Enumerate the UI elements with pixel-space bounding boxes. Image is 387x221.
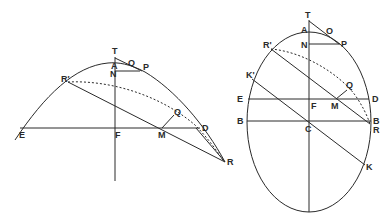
- label-R: R: [373, 125, 380, 135]
- left-figure: T A N O P R' Q E F M D R: [15, 46, 234, 181]
- label-O: O: [326, 26, 333, 36]
- line-MQ: [336, 90, 347, 99]
- label-F: F: [115, 130, 121, 140]
- line-DR: [196, 128, 225, 162]
- label-F: F: [311, 101, 317, 111]
- label-D: D: [372, 94, 379, 104]
- label-Q: Q: [174, 107, 181, 117]
- label-O: O: [128, 58, 135, 68]
- label-P: P: [143, 62, 149, 72]
- label-D: D: [202, 123, 209, 133]
- line-R-prime-R: [271, 49, 370, 124]
- label-C: C: [305, 124, 312, 134]
- label-R-prime: R': [61, 74, 70, 84]
- line-R-prime-R: [68, 82, 225, 162]
- label-N: N: [301, 40, 308, 50]
- label-A: A: [301, 25, 308, 35]
- line-MQ: [162, 115, 174, 128]
- label-T: T: [112, 46, 118, 56]
- label-E: E: [19, 130, 25, 140]
- curve: [15, 63, 225, 162]
- label-M: M: [158, 130, 166, 140]
- label-M: M: [331, 101, 339, 111]
- label-K: K: [366, 162, 373, 172]
- label-R: R: [227, 157, 234, 167]
- label-N: N: [110, 69, 117, 79]
- geometry-diagram: T A N O P R' Q E F M D R T A O N P R' K'…: [0, 0, 387, 221]
- right-figure: T A O N P R' K' Q E F M D B C B R K: [237, 10, 380, 212]
- label-E: E: [237, 94, 243, 104]
- label-Q: Q: [346, 80, 353, 90]
- label-T: T: [305, 10, 311, 20]
- label-K-prime: K': [246, 70, 255, 80]
- label-B-left: B: [237, 116, 244, 126]
- label-P: P: [341, 39, 347, 49]
- label-R-prime: R': [263, 40, 272, 50]
